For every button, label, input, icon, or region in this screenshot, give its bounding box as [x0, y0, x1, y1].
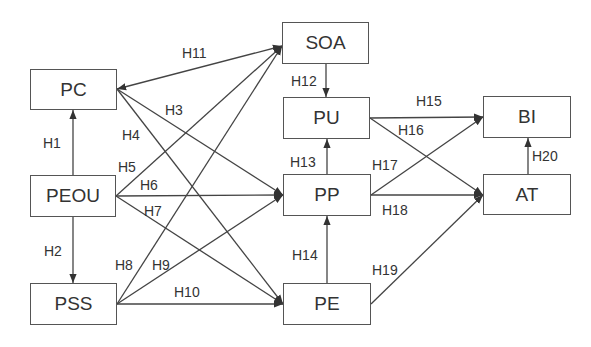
edge-h6-arrow: [116, 195, 283, 196]
node-label: PC: [60, 79, 86, 101]
node-label: AT: [516, 184, 539, 206]
node-peou: PEOU: [30, 175, 116, 217]
edge-label-h1: H1: [43, 136, 61, 150]
edge-label-h19: H19: [372, 263, 398, 277]
edge-label-h8: H8: [115, 258, 133, 272]
edge-h15-arrow: [370, 117, 483, 118]
node-label: PU: [313, 107, 339, 129]
node-pp: PP: [283, 174, 371, 216]
node-label: PEOU: [46, 185, 100, 207]
edge-label-h5: H5: [118, 160, 136, 174]
edge-h4-arrow: [117, 89, 283, 304]
edge-label-h12: H12: [291, 74, 317, 88]
edge-label-h13: H13: [290, 155, 316, 169]
node-label: PSS: [54, 293, 92, 315]
edge-label-h16: H16: [398, 123, 424, 137]
research-model-diagram: H1H2H11H3H4H5H6H7H8H9H10H12H13H14H15H16H…: [0, 0, 591, 347]
edge-label-h14: H14: [292, 248, 318, 262]
node-label: BI: [518, 106, 536, 128]
edge-label-h20: H20: [532, 149, 558, 163]
node-soa: SOA: [282, 22, 369, 64]
node-pc: PC: [30, 69, 117, 110]
node-label: SOA: [305, 32, 345, 54]
edge-label-h17: H17: [372, 158, 398, 172]
node-pss: PSS: [30, 283, 117, 325]
edge-label-h3: H3: [165, 103, 183, 117]
edge-label-h6: H6: [140, 178, 158, 192]
edge-label-h11: H11: [182, 46, 207, 60]
edge-label-h18: H18: [382, 203, 408, 217]
edge-label-h9: H9: [152, 258, 170, 272]
edge-label-h10: H10: [174, 285, 200, 299]
node-bi: BI: [483, 96, 571, 138]
node-at: AT: [483, 174, 571, 215]
edge-label-h15: H15: [416, 94, 442, 108]
edge-label-h7: H7: [144, 204, 162, 218]
edge-label-h4: H4: [122, 128, 140, 142]
node-pu: PU: [283, 97, 370, 139]
node-label: PE: [314, 293, 339, 315]
node-pe: PE: [283, 283, 371, 325]
node-label: PP: [314, 184, 339, 206]
edge-h8-arrow: [117, 46, 282, 304]
edge-label-h2: H2: [44, 244, 62, 258]
